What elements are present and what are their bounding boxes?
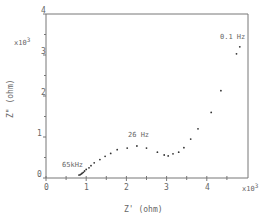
data-point bbox=[220, 90, 222, 92]
data-point bbox=[90, 165, 92, 167]
data-point bbox=[99, 159, 101, 161]
data-point bbox=[110, 153, 112, 155]
data-point bbox=[197, 128, 199, 130]
data-point bbox=[146, 147, 148, 149]
data-points bbox=[78, 46, 241, 176]
annotation-01hz: 0.1 Hz bbox=[220, 33, 245, 41]
y-tick-0: 0 bbox=[37, 170, 42, 179]
data-point bbox=[163, 154, 165, 156]
x-tick-3: 3 bbox=[164, 183, 169, 192]
axis-ticks bbox=[43, 14, 227, 181]
annotation-26hz: 26 Hz bbox=[128, 131, 149, 139]
data-point bbox=[85, 169, 87, 171]
data-point bbox=[104, 155, 106, 157]
data-point bbox=[157, 151, 159, 153]
y-tick-2: 2 bbox=[41, 88, 46, 97]
x-tick-2: 2 bbox=[124, 183, 129, 192]
data-point bbox=[178, 151, 180, 153]
data-point bbox=[210, 112, 212, 114]
data-point bbox=[116, 149, 118, 151]
data-point bbox=[183, 147, 185, 149]
data-point bbox=[167, 155, 169, 157]
data-point bbox=[172, 153, 174, 155]
y-tick-1: 1 bbox=[37, 129, 42, 138]
x-tick-1: 1 bbox=[84, 183, 89, 192]
data-point bbox=[88, 167, 90, 169]
data-point bbox=[239, 46, 241, 48]
plot-frame bbox=[46, 14, 248, 178]
y-tick-3: 3 bbox=[41, 47, 46, 56]
x-multiplier: x103 bbox=[242, 182, 258, 193]
data-point bbox=[84, 170, 86, 172]
y-multiplier: x103 bbox=[14, 36, 30, 47]
data-point bbox=[190, 138, 192, 140]
y-tick-4: 4 bbox=[41, 6, 46, 15]
x-axis-label: Z' (ohm) bbox=[124, 205, 163, 214]
data-point bbox=[236, 53, 238, 55]
data-point bbox=[93, 162, 95, 164]
data-point bbox=[126, 147, 128, 149]
annotation-65khz: 65kHz bbox=[62, 161, 83, 169]
data-point bbox=[136, 145, 138, 147]
x-tick-0: 0 bbox=[44, 183, 49, 192]
y-axis-label: Z" (ohm) bbox=[6, 79, 15, 118]
x-tick-4: 4 bbox=[205, 183, 210, 192]
